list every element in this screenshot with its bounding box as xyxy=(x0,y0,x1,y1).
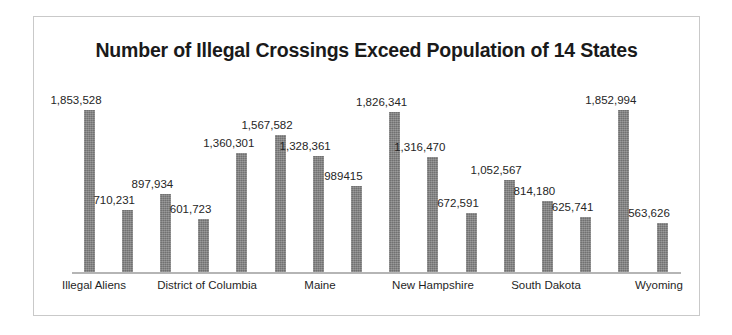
bar-value-label: 1,360,301 xyxy=(203,137,254,149)
bar-value-label: 1,826,341 xyxy=(356,96,407,108)
bar-value-label: 1,853,528 xyxy=(50,94,101,106)
x-axis-tick-label: District of Columbia xyxy=(157,279,257,291)
bar xyxy=(580,217,591,272)
bar xyxy=(657,223,668,272)
bar-value-label: 1,328,361 xyxy=(280,140,331,152)
figure-frame: Number of Illegal Crossings Exceed Popul… xyxy=(33,16,700,316)
bar xyxy=(84,110,95,272)
bar-value-label: 897,934 xyxy=(132,178,174,190)
bar xyxy=(466,213,477,272)
bar-value-label: 989415 xyxy=(324,170,362,182)
bar-value-label: 1,852,994 xyxy=(585,94,636,106)
bar xyxy=(122,210,133,272)
chart-screenshot: Number of Illegal Crossings Exceed Popul… xyxy=(0,0,732,335)
x-axis-tick-label: Maine xyxy=(304,279,335,291)
bar xyxy=(313,156,324,272)
bar-value-label: 563,626 xyxy=(628,207,670,219)
bar xyxy=(236,153,247,272)
bar-value-label: 625,741 xyxy=(552,201,594,213)
bar-value-label: 1,316,470 xyxy=(394,141,445,153)
x-axis-line xyxy=(72,272,681,274)
bar xyxy=(427,157,438,272)
x-axis-tick-label: Wyoming xyxy=(635,279,683,291)
plot-area: 1,853,528710,231897,934601,7231,360,3011… xyxy=(34,17,699,315)
bar xyxy=(618,110,629,272)
bar-value-label: 1,052,567 xyxy=(471,164,522,176)
bar-value-label: 814,180 xyxy=(514,185,556,197)
bar-value-label: 672,591 xyxy=(437,197,479,209)
bar-value-label: 1,567,582 xyxy=(241,119,292,131)
x-axis-tick-label: South Dakota xyxy=(511,279,581,291)
bar xyxy=(351,186,362,272)
bar xyxy=(389,112,400,272)
bar xyxy=(198,219,209,272)
bar xyxy=(275,135,286,272)
bar-value-label: 710,231 xyxy=(93,194,135,206)
x-axis-tick-label: Illegal Aliens xyxy=(62,279,126,291)
x-axis-tick-label: New Hampshire xyxy=(392,279,474,291)
bar-value-label: 601,723 xyxy=(170,203,212,215)
